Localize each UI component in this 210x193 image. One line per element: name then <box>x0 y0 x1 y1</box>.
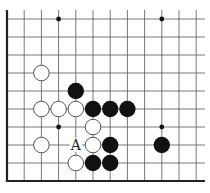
board-edges <box>6 10 205 182</box>
black-stone <box>154 137 170 153</box>
star-point <box>56 17 61 22</box>
white-stone <box>34 65 50 81</box>
point-label: A <box>70 137 82 153</box>
black-stone <box>102 155 118 171</box>
white-stone <box>34 101 50 117</box>
white-stone <box>51 101 67 117</box>
white-stone <box>85 137 101 153</box>
white-stone <box>85 119 101 135</box>
point-labels: A <box>70 137 82 153</box>
star-point <box>159 125 164 130</box>
white-stone <box>68 101 84 117</box>
star-point <box>159 17 164 22</box>
go-board: A <box>0 0 210 193</box>
white-stone <box>34 137 50 153</box>
star-point <box>56 125 61 130</box>
black-stone <box>85 155 101 171</box>
black-stone <box>68 83 84 99</box>
black-stone <box>85 101 101 117</box>
black-stone <box>119 101 135 117</box>
grid-lines <box>7 10 205 181</box>
black-stone <box>102 101 118 117</box>
stones <box>34 65 170 171</box>
white-stone <box>68 155 84 171</box>
black-stone <box>102 137 118 153</box>
